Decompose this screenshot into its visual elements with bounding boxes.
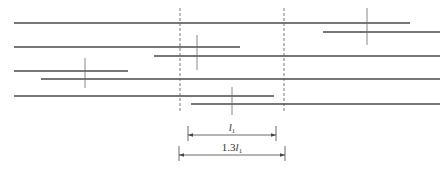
arrowhead-icon <box>188 133 193 137</box>
arrowhead-icon <box>280 153 285 157</box>
lap-splice-diagram: l1 1.3l1 <box>0 0 447 177</box>
dimension-label-l1: l1 <box>229 122 236 135</box>
arrowhead-icon <box>271 133 276 137</box>
arrowhead-icon <box>179 153 184 157</box>
dimension-label-1-3l1: 1.3l1 <box>222 142 242 155</box>
